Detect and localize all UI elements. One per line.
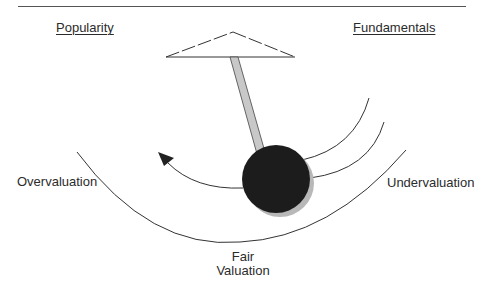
- valuation-arc: [77, 150, 406, 243]
- motion-line-upper: [302, 98, 369, 160]
- undervaluation-label: Undervaluation: [387, 176, 474, 190]
- fundamentals-label: Fundamentals: [353, 21, 435, 35]
- fair-label-line2: Valuation: [203, 264, 283, 278]
- overvaluation-label: Overvaluation: [17, 175, 97, 189]
- pendulum-rod: [230, 57, 265, 154]
- motion-line-lower: [310, 122, 384, 178]
- fair-valuation-label: Fair Valuation: [203, 250, 283, 278]
- swing-arrow-head-icon: [158, 152, 174, 166]
- pendulum-bob: [242, 145, 310, 213]
- popularity-label: Popularity: [56, 21, 114, 35]
- swing-arrow-shaft: [168, 163, 243, 188]
- fair-label-line1: Fair: [203, 250, 283, 264]
- pendulum-diagram: [0, 0, 483, 286]
- pivot-triangle: [166, 32, 295, 57]
